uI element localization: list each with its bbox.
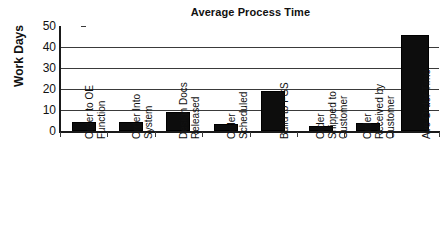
y-axis-title: Work Days xyxy=(12,10,26,102)
chart-title: Average Process Time xyxy=(60,6,441,18)
x-tick xyxy=(155,132,156,137)
x-category-label-line: Shipped to xyxy=(326,91,338,139)
x-tick xyxy=(202,132,203,137)
x-tick xyxy=(250,132,251,137)
x-tick xyxy=(297,132,298,137)
x-category-label: Design DocsReleased xyxy=(178,82,201,139)
x-category-label-line: Order xyxy=(226,92,238,139)
x-category-label: Build to FGS xyxy=(279,82,291,139)
y-tick-label-30: 30 xyxy=(30,62,56,74)
x-category-label-line: Ave Order Time xyxy=(421,69,433,139)
y-tick-label-50: 50 xyxy=(30,20,56,32)
x-tick xyxy=(107,132,108,137)
y-tick-label-20: 20 xyxy=(30,83,56,95)
x-category-label-line: Order Into xyxy=(131,94,143,139)
x-category-label-line: System xyxy=(143,94,155,139)
x-category-label-line: Build to FGS xyxy=(279,82,291,139)
x-category-label: Order to OEFunction xyxy=(84,85,107,139)
x-category-label: OrderScheduled xyxy=(226,92,249,139)
x-category-label-line: Order to OE xyxy=(84,85,96,139)
x-category-label-line: Design Docs xyxy=(178,82,190,139)
x-category-label: OrderReceived byCustomer xyxy=(362,84,397,139)
x-category-label: Order IntoSystem xyxy=(131,94,154,139)
x-category-label-line: Customer xyxy=(385,84,397,139)
x-category-label-line: Scheduled xyxy=(237,92,249,139)
x-category-label-line: Function xyxy=(95,85,107,139)
y-axis-line xyxy=(59,26,61,132)
chart-container: Average Process Time Work Days 504030201… xyxy=(0,0,441,242)
x-category-label-line: Released xyxy=(190,82,202,139)
x-category-label-line: Order xyxy=(315,91,327,139)
x-category-label-line: Received by xyxy=(374,84,386,139)
x-category-label: Ave Order Time xyxy=(421,69,433,139)
x-category-label-line: Customer xyxy=(338,91,350,139)
x-category-label-line: Order xyxy=(362,84,374,139)
y-tick-label-0: 0 xyxy=(30,125,56,137)
y-axis-tick-labels: 50403020100 xyxy=(26,0,56,242)
x-tick xyxy=(439,132,440,137)
x-category-label: OrderShipped toCustomer xyxy=(315,91,350,139)
y-tick-label-10: 10 xyxy=(30,104,56,116)
y-tick-label-40: 40 xyxy=(30,41,56,53)
x-tick xyxy=(60,132,61,137)
